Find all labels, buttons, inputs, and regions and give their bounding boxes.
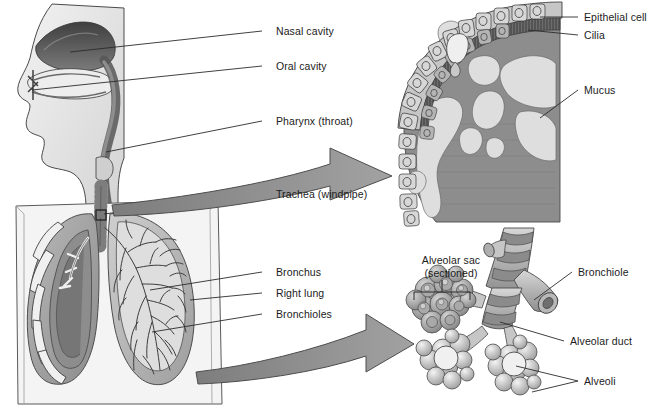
alveoli-cluster-left xyxy=(416,329,474,389)
label-alveoli: Alveoli xyxy=(584,375,616,388)
label-bronchiole: Bronchiole xyxy=(578,266,629,279)
arrow-to-alveoli xyxy=(196,314,414,384)
label-trachea: Trachea (windpipe) xyxy=(276,188,367,201)
alveoli-cluster-right xyxy=(485,335,541,395)
head-neck-section xyxy=(18,4,124,236)
label-mucus: Mucus xyxy=(584,84,615,97)
label-bronchus: Bronchus xyxy=(276,266,321,279)
figure-artwork xyxy=(0,0,661,417)
label-bronchioles: Bronchioles xyxy=(276,308,332,321)
label-nasal-cavity: Nasal cavity xyxy=(276,25,334,38)
label-alveolar-duct: Alveolar duct xyxy=(570,335,632,348)
epithelium-inset xyxy=(398,2,562,226)
label-pharynx: Pharynx (throat) xyxy=(276,115,353,128)
label-right-lung: Right lung xyxy=(276,287,324,300)
respiratory-system-figure: Nasal cavity Oral cavity Pharynx (throat… xyxy=(0,0,661,417)
label-epithelial-cell: Epithelial cell xyxy=(584,11,647,24)
label-alveolar-sac-line1: Alveolar sac xyxy=(421,254,481,267)
label-cilia: Cilia xyxy=(584,29,605,42)
arrow-to-epithelium xyxy=(112,148,392,216)
label-alveolar-sac: Alveolar sac (sectioned) xyxy=(421,254,481,279)
label-oral-cavity: Oral cavity xyxy=(276,60,327,73)
label-alveolar-sac-line2: (sectioned) xyxy=(421,267,481,280)
leader-pharynx xyxy=(106,121,262,152)
